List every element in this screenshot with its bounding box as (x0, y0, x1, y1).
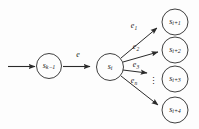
diagram-canvas: sk−1 si si+1 si+2 si+3 si+4 e e1 e2 e3 e… (0, 0, 199, 129)
node-s-i-plus-1-label: si+1 (169, 18, 181, 27)
node-s-i-plus-4-label: si+4 (169, 106, 181, 115)
edge-e2-label: e2 (133, 43, 139, 52)
node-s-i-plus-3-subscript: i+3 (172, 77, 180, 83)
edge-e2-line (123, 52, 158, 62)
edge-en-label: en (131, 77, 137, 86)
edge-e-label: e (76, 51, 80, 60)
edge-e3-label: e3 (133, 61, 139, 70)
edge-e1-label: e1 (131, 22, 137, 31)
node-s-i-plus-1-subscript: i+1 (172, 20, 180, 26)
node-s-i-plus-3-label: si+3 (169, 75, 181, 84)
node-s-i-plus-2-label: si+2 (169, 46, 181, 55)
edge-e2-subscript: 2 (136, 46, 139, 52)
node-s-i-plus-2-subscript: i+2 (172, 48, 180, 54)
node-s-i-subscript: i (111, 65, 113, 71)
edge-e1-subscript: 1 (134, 25, 137, 31)
edge-en-subscript: n (134, 80, 137, 86)
edge-e3-subscript: 3 (136, 64, 139, 70)
edge-e-base: e (76, 50, 80, 59)
node-s-k-minus-1-subscript: k−1 (46, 64, 55, 70)
node-s-i-label: si (108, 63, 113, 72)
node-s-i-plus-4-subscript: i+4 (172, 108, 180, 114)
vertical-ellipsis: ⋮ (149, 77, 158, 86)
node-s-k-minus-1-label: sk−1 (43, 62, 56, 71)
